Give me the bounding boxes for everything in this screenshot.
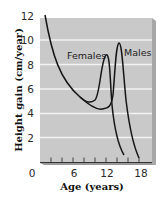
height-gain-chart: Females Males 12 10 8 6 4 2 0 6 12 18 Ag… <box>0 0 164 201</box>
y-tick-8: 8 <box>27 59 34 71</box>
y-tick-6: 6 <box>27 83 34 95</box>
x-tick-18: 18 <box>134 167 147 179</box>
y-tick-12: 12 <box>21 10 34 22</box>
x-axis-title: Age (years) <box>59 181 124 192</box>
females-label: Females <box>67 50 106 61</box>
x-tick-0: 0 <box>29 167 36 179</box>
y-axis-title: Height gain (cm/year) <box>13 28 24 152</box>
plot-shadow <box>152 18 156 165</box>
plot-shadow-bottom <box>40 163 156 165</box>
x-tick-6: 6 <box>71 167 78 179</box>
y-tick-4: 4 <box>27 107 34 119</box>
x-tick-labels: 0 6 12 18 <box>29 167 148 179</box>
y-tick-2: 2 <box>27 132 34 144</box>
males-label: Males <box>124 47 152 58</box>
x-tick-12: 12 <box>100 167 113 179</box>
